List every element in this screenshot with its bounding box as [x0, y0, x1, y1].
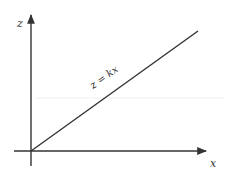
z-axis-label: z — [16, 17, 23, 30]
line-equation-label: z = kx — [87, 63, 120, 91]
line-z-equals-kx — [31, 31, 198, 151]
x-axis-label: x — [210, 157, 217, 170]
coordinate-diagram: z x z = kx — [0, 0, 233, 176]
